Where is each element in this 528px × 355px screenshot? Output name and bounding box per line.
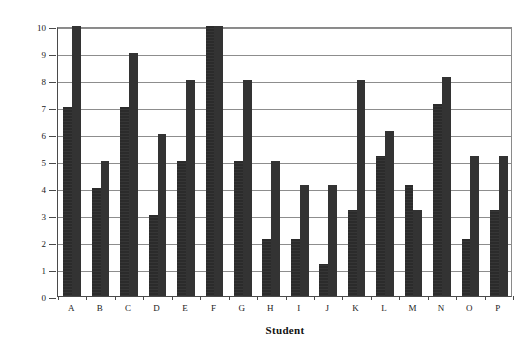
plot-area: 012345678910 [57, 27, 512, 297]
x-axis-category-label: N [438, 303, 445, 313]
x-axis-category-label: A [68, 303, 75, 313]
bar [234, 161, 243, 296]
y-axis-tick [49, 28, 56, 29]
x-axis-category-label: O [466, 303, 473, 313]
bar [490, 210, 499, 296]
x-axis-category-label: M [408, 303, 416, 313]
x-axis-category-label: B [97, 303, 103, 313]
y-axis-tick [49, 136, 56, 137]
bar [499, 156, 508, 296]
x-axis-category-label: H [267, 303, 274, 313]
x-axis-category-label: C [125, 303, 131, 313]
bar [291, 239, 300, 296]
bar [376, 156, 385, 296]
bar [186, 80, 195, 296]
bar [357, 80, 366, 296]
bar [206, 26, 215, 296]
bar [328, 185, 337, 296]
bar [348, 210, 357, 296]
bar-group [58, 28, 86, 296]
x-axis-tick [456, 296, 457, 300]
x-axis-category-label: E [182, 303, 188, 313]
bar-group [342, 28, 370, 296]
bar [433, 104, 442, 296]
y-axis-tick [49, 190, 56, 191]
bar-group [314, 28, 342, 296]
bar [385, 131, 394, 296]
y-axis-tick-label-text: 8 [42, 77, 47, 87]
bar [72, 26, 81, 296]
bar [442, 77, 451, 296]
bar-group [456, 28, 484, 296]
x-axis-tick [485, 296, 486, 300]
y-axis-tick [49, 271, 56, 272]
bar [63, 107, 72, 296]
bar-group [172, 28, 200, 296]
x-axis-category-label: L [381, 303, 387, 313]
y-axis-tick-label-text: 7 [42, 104, 47, 114]
y-axis-tick [49, 298, 56, 299]
bar-group [257, 28, 285, 296]
bar [413, 210, 422, 296]
x-axis-tick [86, 296, 87, 300]
bar-group [143, 28, 171, 296]
bar-group [229, 28, 257, 296]
bar-group [115, 28, 143, 296]
y-axis-tick-label-text: 2 [42, 239, 47, 249]
x-axis-tick [172, 296, 173, 300]
y-axis-tick-label-text: 0 [42, 293, 47, 303]
x-axis-title: Student [55, 324, 515, 336]
bar [120, 107, 129, 296]
y-axis-tick [49, 244, 56, 245]
bar [149, 215, 158, 296]
bar-group [200, 28, 228, 296]
x-axis-tick [257, 296, 258, 300]
y-axis-title: Total Score [5, 0, 25, 100]
x-axis-tick [229, 296, 230, 300]
x-axis-category-label: D [153, 303, 160, 313]
bar-group [485, 28, 513, 296]
bar-chart: Total Score 012345678910 Student ABCDEFG… [0, 0, 528, 355]
x-axis-tick [286, 296, 287, 300]
bar [319, 264, 328, 296]
bar [262, 239, 271, 296]
x-axis-tick [399, 296, 400, 300]
bar [300, 185, 309, 296]
bar [158, 134, 167, 296]
y-axis-tick-label-text: 9 [42, 50, 47, 60]
bar [271, 161, 280, 296]
x-axis-tick [342, 296, 343, 300]
x-axis-tick [200, 296, 201, 300]
x-axis-category-label: P [495, 303, 500, 313]
bar [177, 161, 186, 296]
bar [214, 26, 223, 296]
x-axis-category-label: J [325, 303, 329, 313]
y-axis-tick-label-text: 4 [42, 185, 47, 195]
x-axis-tick [143, 296, 144, 300]
y-axis-tick-label-text: 5 [42, 158, 47, 168]
x-axis-tick [314, 296, 315, 300]
y-axis-tick-label-text: 3 [42, 212, 47, 222]
x-axis-tick [428, 296, 429, 300]
x-axis-category-label: F [211, 303, 216, 313]
y-axis-tick-label-text: 10 [37, 23, 46, 33]
y-axis-tick-label-text: 6 [42, 131, 47, 141]
y-axis-tick [49, 55, 56, 56]
x-axis-category-label: I [297, 303, 300, 313]
x-axis-category-label: G [239, 303, 246, 313]
y-axis-tick [49, 217, 56, 218]
x-axis-category-label: K [352, 303, 359, 313]
y-axis-tick-label-text: 1 [42, 266, 47, 276]
y-axis-tick [49, 109, 56, 110]
bar-group [286, 28, 314, 296]
bar [101, 161, 110, 296]
bar [129, 53, 138, 296]
bar-group [428, 28, 456, 296]
bar-group [371, 28, 399, 296]
x-axis-tick [115, 296, 116, 300]
bar [243, 80, 252, 296]
x-axis-tick [513, 296, 514, 300]
x-axis-tick [58, 296, 59, 300]
bar [470, 156, 479, 296]
y-axis-tick [49, 82, 56, 83]
